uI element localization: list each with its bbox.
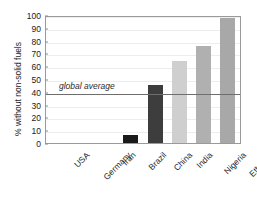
x-axis-label: Nigeria <box>221 150 247 176</box>
bar <box>172 61 187 143</box>
y-axis-tick-mark <box>45 105 48 106</box>
y-axis-tick-label: 60 <box>1 63 45 72</box>
bar-slot <box>216 17 240 143</box>
x-axis-label: USA <box>72 150 91 169</box>
average-line <box>46 94 240 95</box>
bar-slot <box>192 17 216 143</box>
y-axis-tick-label: 0 <box>1 140 45 149</box>
bar <box>123 135 138 143</box>
y-axis-tick-mark <box>45 118 48 119</box>
x-axis-labels: USAGermanyIranBrazilChinaIndiaNigeriaEth… <box>45 146 241 206</box>
y-axis-tick-label: 100 <box>1 12 45 21</box>
bar-chart: % without non-solid fuels 01020304050607… <box>0 0 257 208</box>
y-axis-tick-label: 10 <box>1 127 45 136</box>
y-axis-tick-mark <box>45 144 48 145</box>
x-axis-label: China <box>171 150 194 173</box>
average-line-label: global average <box>59 81 115 91</box>
bar-slot <box>119 17 143 143</box>
y-axis-tick-label: 70 <box>1 50 45 59</box>
x-axis-label: Brazil <box>146 150 168 172</box>
y-axis-tick-mark <box>45 28 48 29</box>
y-axis-tick-mark <box>45 54 48 55</box>
y-axis-tick-mark <box>45 16 48 17</box>
y-axis-tick-label: 90 <box>1 24 45 33</box>
bar-slot <box>143 17 167 143</box>
bar-slot <box>167 17 191 143</box>
plot-area: 0102030405060708090100 global average <box>45 16 241 144</box>
y-axis-tick-mark <box>45 80 48 81</box>
y-axis-tick-mark <box>45 67 48 68</box>
x-axis-label: Ethiopia <box>247 150 257 179</box>
y-axis-tick-label: 80 <box>1 37 45 46</box>
y-axis-tick-label: 20 <box>1 114 45 123</box>
bar <box>220 18 235 143</box>
y-axis-tick-mark <box>45 41 48 42</box>
y-axis-tick-label: 50 <box>1 76 45 85</box>
y-axis-tick-label: 40 <box>1 88 45 97</box>
y-axis-tick-label: 30 <box>1 101 45 110</box>
y-axis-tick-mark <box>45 131 48 132</box>
x-axis-label: India <box>194 150 214 170</box>
